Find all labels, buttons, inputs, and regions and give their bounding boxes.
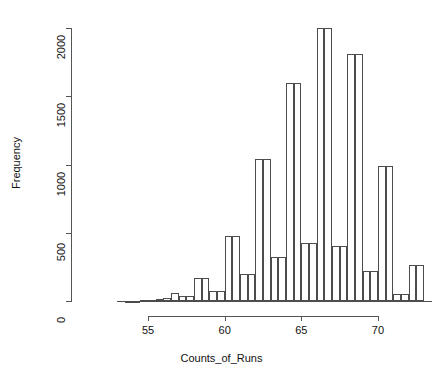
histogram-bar bbox=[232, 236, 240, 301]
histogram-plot: 0500100015002000 Frequency 55606570 Coun… bbox=[0, 0, 443, 386]
histogram-bar bbox=[355, 54, 363, 301]
histogram-bar bbox=[409, 265, 417, 301]
histogram-bar bbox=[317, 28, 325, 301]
x-axis-label: Counts_of_Runs bbox=[0, 352, 443, 364]
histogram-bar bbox=[217, 291, 225, 301]
histogram-bar bbox=[332, 246, 340, 301]
histogram-bar bbox=[263, 159, 271, 301]
x-axis-line bbox=[148, 316, 378, 317]
x-tick-label: 55 bbox=[128, 324, 168, 336]
histogram-bar bbox=[209, 291, 217, 301]
x-tick bbox=[148, 316, 149, 321]
histogram-bar bbox=[378, 166, 386, 301]
histogram-bar bbox=[393, 294, 401, 301]
x-tick bbox=[301, 316, 302, 321]
x-tick-label: 70 bbox=[358, 324, 398, 336]
histogram-bar bbox=[225, 236, 233, 301]
histogram-bar bbox=[248, 274, 256, 301]
x-tick-label: 60 bbox=[205, 324, 245, 336]
histogram-bar bbox=[278, 257, 286, 301]
histogram-bar bbox=[194, 278, 202, 301]
histogram-bar bbox=[240, 274, 248, 301]
x-tick-label: 65 bbox=[281, 324, 321, 336]
histogram-bar bbox=[309, 243, 317, 301]
x-tick bbox=[225, 316, 226, 321]
histogram-bar bbox=[363, 271, 371, 301]
histogram-bar bbox=[401, 294, 409, 301]
histogram-bar bbox=[386, 166, 394, 301]
histogram-bar bbox=[370, 271, 378, 301]
histogram-bar bbox=[271, 257, 279, 301]
histogram-bar bbox=[294, 83, 302, 301]
bars-baseline bbox=[117, 301, 431, 302]
histogram-bar bbox=[202, 278, 210, 301]
x-tick bbox=[378, 316, 379, 321]
histogram-bar bbox=[416, 265, 424, 301]
histogram-bar bbox=[347, 54, 355, 301]
histogram-bar bbox=[301, 243, 309, 301]
histogram-bar bbox=[255, 159, 263, 301]
histogram-bar bbox=[340, 246, 348, 301]
histogram-bar bbox=[324, 28, 332, 301]
histogram-bar bbox=[171, 293, 179, 301]
histogram-bar bbox=[286, 83, 294, 301]
